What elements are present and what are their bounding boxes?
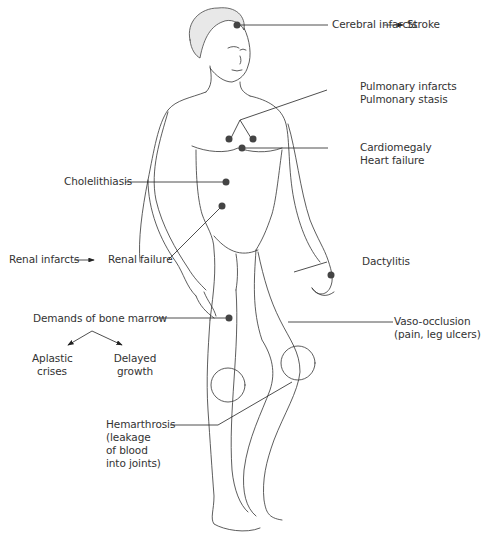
- knee-circle-right: [211, 368, 245, 402]
- label-heart-failure: Heart failure: [360, 154, 424, 167]
- site-dots: [219, 22, 335, 322]
- label-renal-failure: Renal failure: [108, 253, 173, 266]
- label-delayed-growth: Delayed growth: [113, 352, 157, 378]
- dot-hand: [328, 272, 335, 279]
- knee-circle-left: [281, 346, 315, 380]
- label-stroke: Stroke: [407, 18, 440, 31]
- label-of-blood: of blood: [106, 444, 148, 457]
- label-pulmonary-infarcts: Pulmonary infarcts: [360, 80, 457, 93]
- label-dactylitis: Dactylitis: [362, 255, 410, 268]
- label-cardiomegaly: Cardiomegaly: [360, 141, 432, 154]
- label-pulmonary-stasis: Pulmonary stasis: [360, 93, 448, 106]
- dot-bone-marrow: [226, 315, 233, 322]
- dot-gallbladder: [223, 179, 230, 186]
- label-hemarthrosis: Hemarthrosis: [106, 418, 175, 431]
- label-leakage: (leakage: [106, 431, 151, 444]
- label-aplastic: Aplastic: [32, 352, 72, 365]
- label-crises: crises: [32, 365, 72, 378]
- label-delayed: Delayed: [113, 352, 157, 365]
- dot-brain: [234, 22, 241, 29]
- label-cerebral-infarcts: Cerebral infarcts: [332, 18, 417, 31]
- dot-lung-left: [250, 136, 257, 143]
- hair: [189, 8, 244, 58]
- figure-outline: [139, 8, 334, 531]
- label-pain-leg-ulcers: (pain, leg ulcers): [394, 328, 481, 341]
- label-renal-infarcts: Renal infarcts: [9, 253, 79, 266]
- label-growth: growth: [113, 365, 157, 378]
- label-bone-marrow: Demands of bone marrow: [33, 312, 167, 325]
- label-aplastic-crises: Aplastic crises: [32, 352, 72, 378]
- dot-heart: [239, 145, 246, 152]
- label-vaso-occlusion: Vaso-occlusion: [394, 315, 470, 328]
- label-into-joints: into joints): [106, 457, 161, 470]
- dot-kidney: [219, 203, 226, 210]
- face: [210, 28, 250, 82]
- label-cholelithiasis: Cholelithiasis: [64, 175, 132, 188]
- dot-lung-right: [226, 136, 233, 143]
